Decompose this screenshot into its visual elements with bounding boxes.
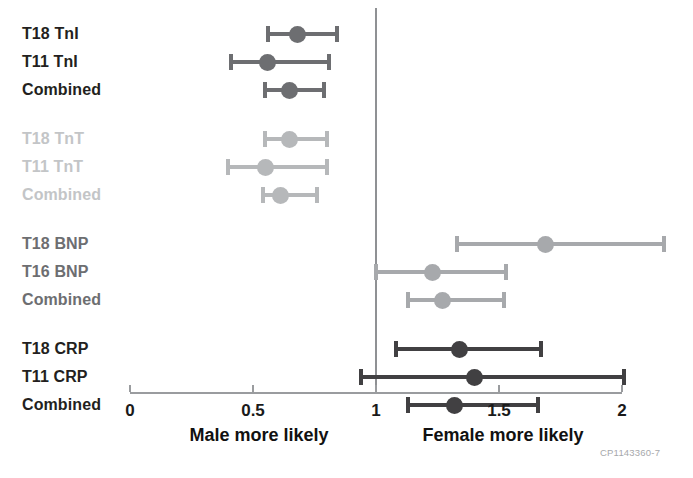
confidence-interval-line [228,165,326,169]
whisker-cap-upper [539,341,543,357]
confidence-interval-line [361,375,624,379]
whisker-cap-lower [394,341,398,357]
whisker-cap-lower [263,82,267,98]
axis-tick-label-3: 1.5 [487,402,511,419]
axis-caption-right: Female more likely [422,426,583,444]
row-label-tni-0: T18 TnI [22,26,79,42]
confidence-interval-line [231,60,329,64]
axis-tick-3 [498,385,500,392]
point-estimate-marker [451,341,468,358]
reference-line [375,8,377,392]
confidence-interval-line [263,193,317,197]
x-axis-line [130,392,622,394]
confidence-interval-line [376,270,506,274]
point-estimate-marker [466,369,483,386]
point-estimate-marker [281,82,298,99]
axis-tick-1 [252,385,254,392]
whisker-cap-upper [504,264,508,280]
whisker-cap-upper [622,369,626,385]
whisker-cap-upper [335,26,339,42]
whisker-cap-upper [536,397,540,413]
row-label-crp-1: T11 CRP [22,369,88,385]
whisker-cap-lower [226,159,230,175]
axis-tick-2 [375,385,377,392]
axis-tick-label-4: 2 [617,402,626,419]
whisker-cap-lower [406,397,410,413]
point-estimate-marker [537,236,554,253]
point-estimate-marker [259,54,276,71]
whisker-cap-lower [266,26,270,42]
axis-tick-label-2: 1 [371,402,380,419]
whisker-cap-upper [502,292,506,308]
row-label-tnt-1: T11 TnT [22,159,83,175]
axis-tick-label-1: 0.5 [241,402,265,419]
whisker-cap-upper [662,236,666,252]
point-estimate-marker [272,187,289,204]
whisker-cap-lower [406,292,410,308]
point-estimate-marker [434,292,451,309]
row-label-tnt-2: Combined [22,187,101,203]
row-label-bnp-2: Combined [22,292,101,308]
point-estimate-marker [257,159,274,176]
whisker-cap-lower [229,54,233,70]
row-label-crp-0: T18 CRP [22,341,89,357]
whisker-cap-lower [455,236,459,252]
whisker-cap-lower [359,369,363,385]
confidence-interval-line [396,347,541,351]
whisker-cap-upper [322,82,326,98]
whisker-cap-upper [327,54,331,70]
row-label-tni-2: Combined [22,82,101,98]
confidence-interval-line [457,242,664,246]
point-estimate-marker [424,264,441,281]
watermark-text: CP1143360-7 [600,447,660,458]
whisker-cap-upper [315,187,319,203]
forest-plot: T18 TnIT11 TnICombinedT18 TnTT11 TnTComb… [0,0,693,478]
point-estimate-marker [289,26,306,43]
axis-tick-label-0: 0 [125,402,134,419]
axis-tick-4 [621,385,623,392]
point-estimate-marker [281,131,298,148]
confidence-interval-line [408,403,538,407]
point-estimate-marker [446,397,463,414]
whisker-cap-lower [263,131,267,147]
row-label-bnp-0: T18 BNP [22,236,89,252]
row-label-tni-1: T11 TnI [22,54,78,70]
axis-caption-left: Male more likely [189,426,328,444]
whisker-cap-lower [374,264,378,280]
axis-tick-0 [129,385,131,392]
whisker-cap-upper [325,159,329,175]
row-label-tnt-0: T18 TnT [22,131,84,147]
whisker-cap-upper [325,131,329,147]
whisker-cap-lower [261,187,265,203]
confidence-interval-line [408,298,504,302]
row-label-crp-2: Combined [22,397,101,413]
row-label-bnp-1: T16 BNP [22,264,89,280]
